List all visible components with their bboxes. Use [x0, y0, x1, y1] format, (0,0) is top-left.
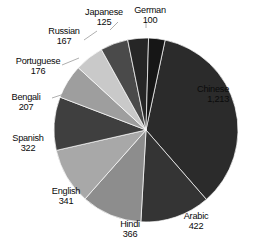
- pie-label-japanese: Japanese125: [85, 7, 123, 28]
- pie-label-name: Russian: [48, 26, 79, 36]
- pie-chart-canvas: [0, 0, 263, 242]
- pie-label-value: 167: [48, 36, 79, 46]
- pie-label-value: 341: [52, 196, 80, 206]
- pie-label-value: 1,213: [197, 94, 229, 104]
- pie-chart: Chinese1,213Arabic422Hindi366English341S…: [0, 0, 263, 242]
- pie-label-arabic: Arabic422: [184, 211, 209, 232]
- pie-label-german: German100: [134, 5, 166, 26]
- pie-label-name: Portuguese: [16, 56, 61, 66]
- pie-label-value: 422: [184, 221, 209, 231]
- pie-label-english: English341: [52, 186, 80, 207]
- pie-label-name: German: [134, 5, 166, 15]
- pie-label-value: 100: [134, 15, 166, 25]
- pie-label-russian: Russian167: [48, 26, 79, 47]
- pie-label-spanish: Spanish322: [12, 133, 43, 154]
- pie-label-bengali: Bengali207: [12, 92, 41, 113]
- pie-label-value: 207: [12, 102, 41, 112]
- pie-label-value: 322: [12, 143, 43, 153]
- pie-label-name: Chinese: [197, 84, 229, 94]
- pie-label-value: 176: [16, 66, 61, 76]
- pie-label-portuguese: Portuguese176: [16, 56, 61, 77]
- pie-label-value: 366: [120, 229, 140, 239]
- pie-label-name: Japanese: [85, 7, 123, 17]
- pie-slice-group: [54, 38, 238, 222]
- leader-line-russian: [84, 31, 97, 40]
- pie-label-chinese: Chinese1,213: [197, 84, 229, 105]
- pie-label-name: Bengali: [12, 92, 41, 102]
- pie-label-name: Spanish: [12, 133, 43, 143]
- pie-label-name: Hindi: [120, 219, 140, 229]
- pie-label-hindi: Hindi366: [120, 219, 140, 240]
- leader-line-portuguese: [62, 58, 79, 65]
- pie-label-name: Arabic: [184, 211, 209, 221]
- pie-label-name: English: [52, 186, 80, 196]
- pie-label-value: 125: [85, 17, 123, 27]
